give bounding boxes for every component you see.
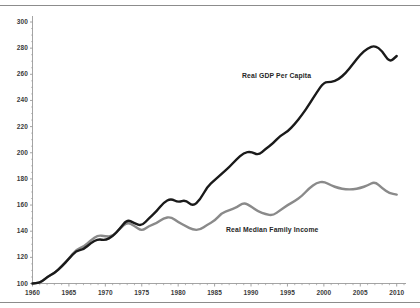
x-tick-label: 1980: [163, 289, 193, 296]
chart-figure: 100120140160180200220240260280300 196019…: [0, 0, 420, 308]
plot-canvas: [0, 0, 420, 308]
y-tick-label: 100: [6, 280, 28, 287]
data-series-group: [33, 46, 397, 283]
x-tick-label: 1970: [90, 289, 120, 296]
series-annotation-real-gdp-per-capita: Real GDP Per Capita: [242, 72, 311, 79]
x-tick-label: 2000: [309, 289, 339, 296]
series-annotation-real-median-family-income: Real Median Family Income: [226, 226, 319, 233]
y-tick-label: 300: [6, 18, 28, 25]
y-tick-label: 140: [6, 227, 28, 234]
y-tick-label: 240: [6, 96, 28, 103]
y-tick-label: 220: [6, 123, 28, 130]
x-tick-label: 1985: [200, 289, 230, 296]
series-line-real-gdp-per-capita: [33, 46, 397, 283]
x-tick-label: 2010: [382, 289, 412, 296]
y-tick-label: 260: [6, 70, 28, 77]
x-tick-label: 1995: [272, 289, 302, 296]
y-tick-label: 160: [6, 201, 28, 208]
y-tick-label: 180: [6, 175, 28, 182]
y-tick-label: 280: [6, 44, 28, 51]
x-tick-label: 1960: [18, 289, 48, 296]
x-tick-label: 2005: [345, 289, 375, 296]
series-line-real-median-family-income: [33, 182, 397, 283]
x-tick-label: 1990: [236, 289, 266, 296]
y-tick-label: 200: [6, 149, 28, 156]
x-tick-label: 1975: [127, 289, 157, 296]
y-tick-label: 120: [6, 253, 28, 260]
x-tick-label: 1965: [54, 289, 84, 296]
